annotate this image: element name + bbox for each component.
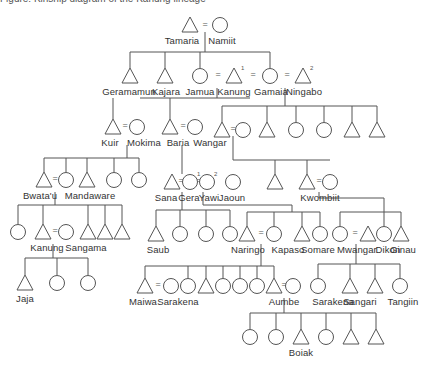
person-label-kuir: Kuir xyxy=(101,137,118,148)
female-circle-icon xyxy=(81,276,96,291)
marriage-sign: = xyxy=(53,173,58,183)
female-circle-icon xyxy=(250,279,265,294)
person-label-geramamun: Geramamun xyxy=(102,86,156,97)
person-label-aumbe: Aumbe xyxy=(269,296,300,307)
female-circle-icon xyxy=(173,227,188,242)
person-label-naringo: Naringo xyxy=(231,244,265,255)
person-label-tangiin: Tangiin xyxy=(388,296,419,307)
person-label-bwatau: Bwata'u xyxy=(23,190,57,201)
male-triangle-icon xyxy=(122,68,138,83)
female-circle-icon xyxy=(317,123,332,138)
person-label-jaja: Jaja xyxy=(16,293,34,304)
person-label-mwangar: Mwangar xyxy=(337,244,377,255)
male-triangle-icon xyxy=(79,172,95,187)
marriage-sign: = xyxy=(53,225,58,235)
marriage-sign: = xyxy=(181,120,186,130)
female-circle-icon xyxy=(236,123,251,138)
male-triangle-icon xyxy=(343,329,359,344)
female-circle-icon xyxy=(223,227,238,242)
person-label-jaoun: Jaoun xyxy=(219,192,245,203)
male-triangle-icon xyxy=(226,68,242,83)
person-label-mokima: Mokima xyxy=(127,137,161,148)
male-triangle-icon xyxy=(267,174,283,189)
female-circle-icon xyxy=(50,276,65,291)
male-triangle-icon xyxy=(105,119,121,134)
female-circle-icon xyxy=(188,120,203,135)
marriage-order-superscript: 1 xyxy=(241,65,245,71)
male-triangle-icon xyxy=(36,172,52,187)
marriage-sign: = xyxy=(251,69,256,79)
female-circle-icon xyxy=(213,18,228,33)
person-label-kajara: Kajara xyxy=(152,86,180,97)
male-triangle-icon xyxy=(368,329,384,344)
male-triangle-icon xyxy=(294,226,310,241)
person-label-sarakena1: Sarakena xyxy=(157,296,198,307)
female-circle-icon xyxy=(289,123,304,138)
male-triangle-icon xyxy=(299,174,315,189)
female-circle-icon xyxy=(59,225,74,240)
female-circle-icon xyxy=(311,279,326,294)
female-circle-icon xyxy=(107,173,122,188)
marriage-order-superscript: 2 xyxy=(310,65,314,71)
person-label-kwombiit: Kwombiit xyxy=(300,192,339,203)
female-circle-icon xyxy=(226,175,241,190)
male-triangle-icon xyxy=(162,119,178,134)
female-circle-icon xyxy=(164,279,179,294)
female-circle-icon xyxy=(11,225,26,240)
female-circle-icon xyxy=(233,279,248,294)
person-label-sana: Sana xyxy=(155,192,178,203)
marriage-sign: = xyxy=(317,175,322,185)
person-label-kapaso: Kapaso xyxy=(272,244,305,255)
male-triangle-icon xyxy=(80,224,96,239)
marriage-sign: = xyxy=(203,19,208,29)
person-label-gera: Gera xyxy=(178,192,200,203)
male-triangle-icon xyxy=(214,122,230,137)
person-label-sangari: Sangari xyxy=(343,296,376,307)
person-label-namiit: Namiit xyxy=(208,35,236,46)
female-circle-icon xyxy=(267,227,282,242)
female-circle-icon xyxy=(377,227,392,242)
male-triangle-icon xyxy=(295,68,311,83)
person-label-mandaware: Mandaware xyxy=(65,190,116,201)
person-label-jamua: Jamua xyxy=(185,86,214,97)
marriage-sign: = xyxy=(123,120,128,130)
marriage-order-superscript: 2 xyxy=(214,171,218,177)
person-label-baria: Baria xyxy=(167,137,190,148)
male-triangle-icon xyxy=(369,122,385,137)
person-label-ningabo: Ningabo xyxy=(286,86,322,97)
person-label-kanung: Kanung xyxy=(217,86,250,97)
person-label-sangama: Sangama xyxy=(65,242,106,253)
female-circle-icon xyxy=(130,120,145,135)
marriage-sign: = xyxy=(259,227,264,237)
male-triangle-icon xyxy=(259,122,275,137)
kinship-lines: ================1212 xyxy=(0,0,433,366)
female-circle-icon xyxy=(319,330,334,345)
male-triangle-icon xyxy=(157,68,173,83)
person-label-kanung2: Kanung xyxy=(30,242,63,253)
marriage-sign: = xyxy=(216,69,221,79)
male-triangle-icon xyxy=(293,329,309,344)
male-triangle-icon xyxy=(148,226,164,241)
female-circle-icon xyxy=(200,175,215,190)
female-circle-icon xyxy=(269,330,284,345)
male-triangle-icon xyxy=(17,275,33,290)
person-label-boiak: Boiak xyxy=(289,347,313,358)
female-circle-icon xyxy=(393,279,408,294)
male-triangle-icon xyxy=(393,226,409,241)
female-circle-icon xyxy=(333,227,348,242)
female-circle-icon xyxy=(181,279,196,294)
female-circle-icon xyxy=(286,279,301,294)
person-label-somare: Somare xyxy=(301,244,335,255)
person-label-yawi: Yawi xyxy=(199,192,219,203)
person-label-tamaria: Tamaria xyxy=(165,35,200,46)
male-triangle-icon xyxy=(367,278,383,293)
person-label-wangar: Wangar xyxy=(193,137,227,148)
male-triangle-icon xyxy=(266,278,282,293)
marriage-sign: = xyxy=(231,123,236,133)
marriage-sign: = xyxy=(285,69,290,79)
female-circle-icon xyxy=(199,227,214,242)
male-triangle-icon xyxy=(198,278,214,293)
male-triangle-icon xyxy=(114,224,130,239)
male-triangle-icon xyxy=(137,278,153,293)
male-triangle-icon xyxy=(97,224,113,239)
